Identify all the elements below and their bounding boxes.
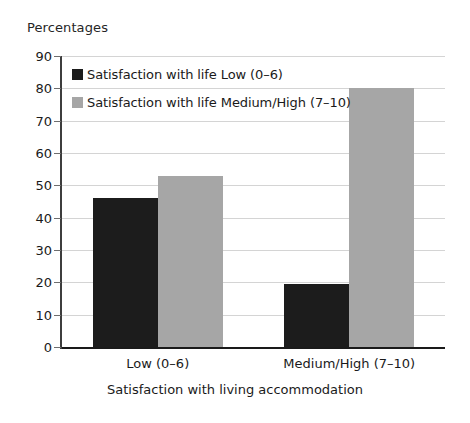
legend-item-label: Satisfaction with life Low (0–6) (87, 67, 283, 82)
bar-chart: Percentages 0102030405060708090 Satisfac… (0, 0, 470, 423)
y-axis-tick-labels: 0102030405060708090 (0, 0, 52, 423)
y-axis-tick (54, 121, 61, 122)
bar (93, 198, 158, 347)
x-axis-tick-label: Low (0–6) (126, 356, 189, 371)
y-axis-tick (54, 88, 61, 89)
y-axis-tick-label: 20 (6, 275, 52, 290)
bar (284, 284, 349, 347)
y-axis-tick (54, 56, 61, 57)
y-axis-tick-label: 90 (6, 49, 52, 64)
y-axis-tick-label: 0 (6, 340, 52, 355)
y-axis-tick (54, 315, 61, 316)
legend-swatch-icon (72, 69, 83, 80)
y-axis-tick (54, 282, 61, 283)
y-axis-tick-label: 30 (6, 243, 52, 258)
chart-legend: Satisfaction with life Low (0–6)Satisfac… (72, 60, 372, 116)
gridline (62, 56, 445, 57)
y-axis-tick (54, 185, 61, 186)
x-axis-tick-label: Medium/High (7–10) (283, 356, 415, 371)
legend-item-label: Satisfaction with life Medium/High (7–10… (87, 95, 351, 110)
y-axis-tick-label: 80 (6, 81, 52, 96)
y-axis-tick-label: 50 (6, 178, 52, 193)
y-axis-tick-label: 70 (6, 113, 52, 128)
axis-baseline (62, 347, 445, 349)
y-axis-tick (54, 153, 61, 154)
y-axis-tick (54, 218, 61, 219)
y-axis-tick-label: 10 (6, 307, 52, 322)
bar (349, 88, 414, 347)
y-axis-tick-label: 60 (6, 146, 52, 161)
legend-item: Satisfaction with life Low (0–6) (72, 60, 372, 88)
legend-swatch-icon (72, 97, 83, 108)
y-axis-tick (54, 250, 61, 251)
legend-item: Satisfaction with life Medium/High (7–10… (72, 88, 372, 116)
y-axis-tick (54, 347, 61, 348)
x-axis-caption: Satisfaction with living accommodation (0, 382, 470, 397)
y-axis-tick-label: 40 (6, 210, 52, 225)
bar (158, 176, 223, 347)
